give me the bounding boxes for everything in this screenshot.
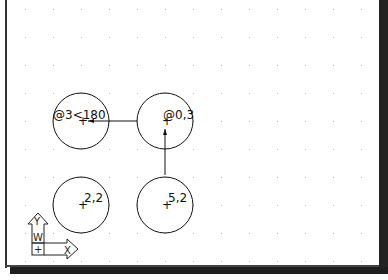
grid-dot bbox=[109, 233, 110, 234]
grid-dot bbox=[193, 9, 194, 10]
grid-dot bbox=[333, 205, 334, 206]
grid-dot bbox=[193, 37, 194, 38]
ucs-w-label: W bbox=[33, 232, 43, 243]
circle-absolute-2-2-label: 2,2 bbox=[84, 191, 103, 205]
grid-dot bbox=[249, 37, 250, 38]
grid-dot bbox=[137, 37, 138, 38]
grid-dot bbox=[109, 261, 110, 262]
grid-dot bbox=[193, 149, 194, 150]
grid-dot bbox=[361, 233, 362, 234]
grid-dot bbox=[25, 261, 26, 262]
grid-dot bbox=[305, 177, 306, 178]
grid-dot bbox=[277, 65, 278, 66]
grid-dot bbox=[361, 37, 362, 38]
grid-dot bbox=[305, 37, 306, 38]
grid-dot bbox=[25, 37, 26, 38]
grid-dot bbox=[165, 37, 166, 38]
circle-polar-label: @3<180 bbox=[53, 108, 106, 122]
grid-dot bbox=[25, 177, 26, 178]
grid-dot bbox=[305, 65, 306, 66]
drawing-entities: +@3<180+@0,3+2,2+5,2 bbox=[53, 93, 194, 233]
grid-dot bbox=[137, 9, 138, 10]
grid-dot bbox=[333, 93, 334, 94]
grid-dot bbox=[221, 233, 222, 234]
grid-dot bbox=[25, 93, 26, 94]
grid-dot bbox=[333, 233, 334, 234]
grid-dot bbox=[277, 261, 278, 262]
grid-dot bbox=[249, 93, 250, 94]
grid-dot bbox=[25, 149, 26, 150]
grid-dot bbox=[361, 9, 362, 10]
grid-dot bbox=[361, 149, 362, 150]
grid-dot bbox=[53, 93, 54, 94]
grid-dot bbox=[305, 93, 306, 94]
grid-dot bbox=[109, 37, 110, 38]
ucs-origin-plus: + bbox=[34, 244, 42, 255]
grid-dot bbox=[25, 65, 26, 66]
grid-dot bbox=[81, 261, 82, 262]
grid-dot bbox=[277, 93, 278, 94]
grid-dot bbox=[193, 261, 194, 262]
grid-dot bbox=[361, 93, 362, 94]
grid-dot bbox=[81, 9, 82, 10]
grid-dot bbox=[249, 149, 250, 150]
grid-dot bbox=[25, 233, 26, 234]
grid-dot bbox=[221, 9, 222, 10]
ucs-x-label: X bbox=[64, 245, 71, 256]
grid-dot bbox=[109, 177, 110, 178]
grid-dot bbox=[221, 121, 222, 122]
grid-dot bbox=[221, 177, 222, 178]
grid-dot bbox=[193, 93, 194, 94]
drawing-viewport[interactable]: +@3<180+@0,3+2,2+5,2 Y W + X bbox=[0, 0, 388, 280]
grid-dot bbox=[53, 177, 54, 178]
grid-dot bbox=[137, 65, 138, 66]
grid-dot bbox=[249, 9, 250, 10]
grid-dot bbox=[221, 37, 222, 38]
grid-dot bbox=[193, 233, 194, 234]
grid-dot bbox=[137, 261, 138, 262]
grid-dot bbox=[305, 9, 306, 10]
grid-dot bbox=[221, 65, 222, 66]
grid-dots bbox=[25, 9, 362, 262]
ucs-icon: Y W + X bbox=[28, 213, 78, 259]
grid-dot bbox=[25, 9, 26, 10]
grid-dot bbox=[249, 205, 250, 206]
grid-dot bbox=[137, 149, 138, 150]
grid-dot bbox=[305, 233, 306, 234]
grid-dot bbox=[361, 261, 362, 262]
ucs-x-arrow bbox=[44, 239, 78, 259]
grid-dot bbox=[249, 65, 250, 66]
grid-dot bbox=[53, 37, 54, 38]
grid-dot bbox=[305, 149, 306, 150]
grid-dot bbox=[277, 9, 278, 10]
grid-dot bbox=[221, 149, 222, 150]
grid-dot bbox=[193, 65, 194, 66]
drawing-canvas[interactable]: +@3<180+@0,3+2,2+5,2 Y W + X bbox=[0, 0, 388, 280]
grid-dot bbox=[53, 65, 54, 66]
grid-dot bbox=[305, 261, 306, 262]
grid-dot bbox=[165, 261, 166, 262]
grid-dot bbox=[249, 233, 250, 234]
grid-dot bbox=[137, 177, 138, 178]
arrow-up-head bbox=[163, 129, 167, 135]
grid-dot bbox=[53, 9, 54, 10]
grid-dot bbox=[81, 37, 82, 38]
grid-dot bbox=[277, 121, 278, 122]
grid-dot bbox=[165, 65, 166, 66]
grid-dot bbox=[361, 65, 362, 66]
circle-relative-label: @0,3 bbox=[163, 108, 194, 122]
grid-dot bbox=[333, 9, 334, 10]
grid-dot bbox=[137, 233, 138, 234]
grid-dot bbox=[277, 233, 278, 234]
grid-dot bbox=[333, 37, 334, 38]
grid-dot bbox=[165, 9, 166, 10]
grid-dot bbox=[53, 233, 54, 234]
grid-dot bbox=[361, 177, 362, 178]
grid-dot bbox=[193, 177, 194, 178]
grid-dot bbox=[109, 65, 110, 66]
ucs-y-label: Y bbox=[33, 216, 41, 227]
grid-dot bbox=[361, 205, 362, 206]
grid-dot bbox=[109, 149, 110, 150]
grid-dot bbox=[333, 149, 334, 150]
grid-dot bbox=[25, 121, 26, 122]
